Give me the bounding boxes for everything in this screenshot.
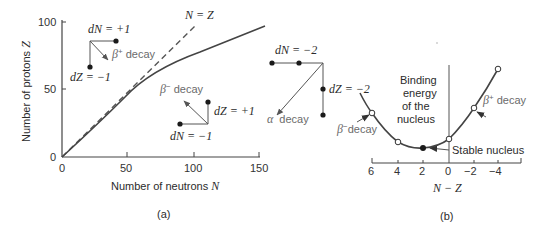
svg-text:dZ = −1: dZ = −1 [70, 70, 111, 84]
svg-text:dN = −1: dN = −1 [170, 129, 212, 143]
svg-text:2: 2 [419, 165, 425, 177]
svg-text:Binding: Binding [400, 74, 437, 86]
y-tick-100: 100 [38, 16, 56, 28]
svg-text:dN = −2: dN = −2 [275, 43, 317, 57]
alpha-decay-inset: dN = −2 dZ = −2 αdecay [267, 43, 370, 126]
x-tick-50: 50 [120, 162, 132, 174]
y-axis-label: Number of protons Z [19, 41, 33, 142]
svg-text:dZ = +1: dZ = +1 [214, 104, 255, 118]
x-axis-label: Number of neutrons N [111, 179, 220, 193]
point-open [495, 66, 501, 72]
svg-text:−4: −4 [489, 165, 502, 177]
svg-text:dN = +1: dN = +1 [88, 22, 130, 36]
beta-plus-label: β+ decay [482, 93, 527, 107]
panel-a-chart: 0 50 100 0 50 100 150 Number of neutrons… [19, 8, 268, 220]
y-tick-50: 50 [44, 83, 56, 95]
svg-text:dZ = −2: dZ = −2 [329, 82, 370, 96]
svg-text:β+ decay: β+ decay [111, 47, 156, 61]
caption-a: (a) [157, 208, 170, 220]
x-tick-150: 150 [250, 162, 268, 174]
svg-text:of the: of the [402, 100, 430, 112]
panel-b-chart: Binding energy of the nucleus β−decay β+… [336, 42, 527, 222]
point-open [446, 136, 452, 142]
x-tick-100: 100 [184, 162, 202, 174]
svg-text:β− decay: β− decay [159, 82, 204, 96]
y-tick-0: 0 [50, 151, 56, 163]
caption-b: (b) [440, 210, 453, 222]
svg-text:6: 6 [368, 165, 374, 177]
svg-text:0: 0 [445, 165, 451, 177]
n-equals-z-label: N = Z [184, 8, 214, 22]
stable-nucleus-label: Stable nucleus [452, 144, 525, 156]
point-open [395, 139, 401, 145]
point-open [369, 110, 375, 116]
point-open [471, 105, 477, 111]
x-tick-0: 0 [59, 162, 65, 174]
decay-diagram: 0 50 100 0 50 100 150 Number of neutrons… [0, 0, 533, 237]
svg-text:nucleus: nucleus [397, 113, 435, 125]
beta-plus-inset: dN = +1 β+ decay dZ = −1 [70, 22, 156, 84]
binding-energy-label: Binding energy of the nucleus [397, 74, 437, 125]
svg-text:αdecay: αdecay [267, 112, 309, 126]
beta-minus-label: β−decay [336, 122, 378, 136]
svg-text:4: 4 [394, 165, 400, 177]
svg-text:−2: −2 [464, 165, 477, 177]
n-minus-z-label: N − Z [432, 181, 462, 195]
beta-minus-inset: β− decay dZ = +1 dN = −1 [159, 82, 255, 143]
point-stable [420, 145, 426, 151]
svg-text:energy: energy [403, 87, 437, 99]
